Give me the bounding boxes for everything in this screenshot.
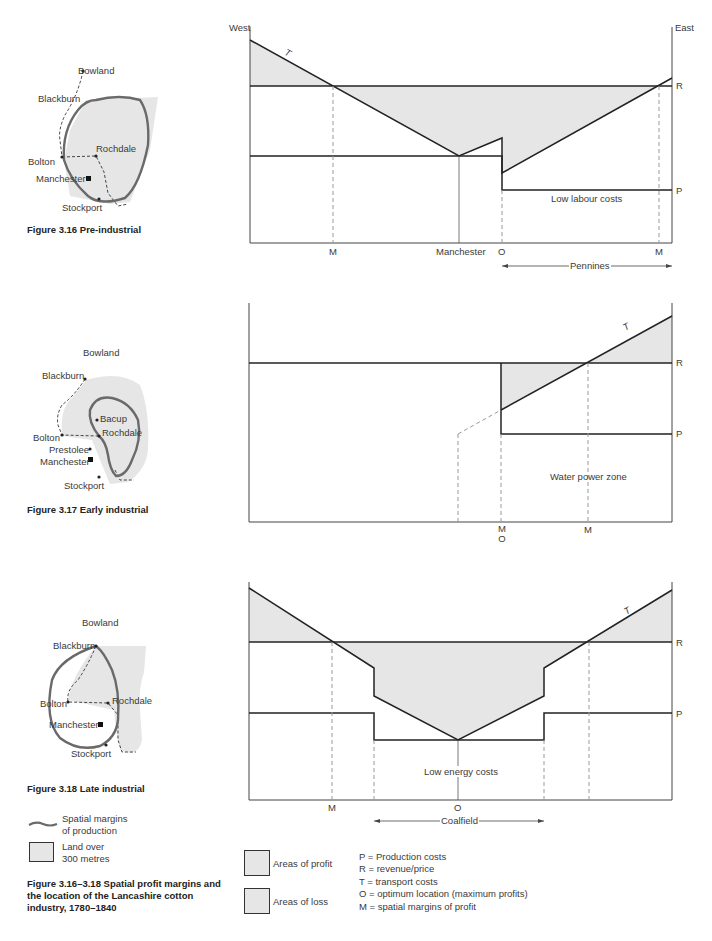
coalfield-label: Coalfield	[440, 815, 479, 826]
chart-2-plot	[0, 280, 712, 570]
water-power-zone-annotation: Water power zone	[550, 471, 627, 482]
x-tick-O: O	[498, 246, 505, 257]
areas-of-loss-swatch-icon	[244, 888, 270, 914]
P-label: P	[676, 428, 682, 439]
west-label: West	[229, 22, 250, 33]
P-label: P	[676, 185, 682, 196]
chart-3-plot	[0, 570, 712, 830]
profit-area	[333, 86, 659, 173]
x-tick-O: O	[454, 802, 461, 813]
profit-area	[332, 642, 589, 740]
key-P: P = Production costs	[359, 851, 446, 863]
main-figure-caption: Figure 3.16–3.18 Spatial profit margins …	[27, 878, 227, 914]
transport-cost-extension	[458, 410, 501, 434]
R-label: R	[676, 357, 683, 368]
x-tick-M-west: M	[329, 246, 337, 257]
land-over-300m-swatch-icon	[29, 842, 54, 862]
production-cost-line-P	[250, 156, 672, 190]
key-R: R = revenue/price	[359, 863, 434, 875]
legend-land-over-300m: Land over 300 metres	[62, 841, 110, 864]
areas-of-profit-swatch-icon	[244, 850, 270, 876]
low-labour-costs-annotation: Low labour costs	[551, 193, 622, 204]
chart-1-plot	[0, 0, 712, 290]
P-label: P	[676, 708, 682, 719]
legend-areas-of-loss: Areas of loss	[273, 896, 328, 907]
x-tick-M-O: M O	[497, 524, 507, 544]
east-label: East	[675, 22, 694, 33]
R-label: R	[676, 80, 683, 91]
x-tick-M-east: M	[655, 246, 663, 257]
x-tick-manchester: Manchester	[436, 246, 486, 257]
x-tick-M-east: M	[584, 524, 592, 535]
key-T: T = transport costs	[359, 876, 438, 888]
x-tick-M: M	[328, 802, 336, 813]
key-M: M = spatial margins of profit	[359, 901, 476, 913]
key-O: O = optimum location (maximum profits)	[359, 888, 528, 900]
low-energy-costs-annotation: Low energy costs	[424, 766, 498, 777]
R-label: R	[676, 637, 683, 648]
pennines-label: Pennines	[569, 260, 611, 271]
legend-areas-of-profit: Areas of profit	[273, 858, 332, 869]
